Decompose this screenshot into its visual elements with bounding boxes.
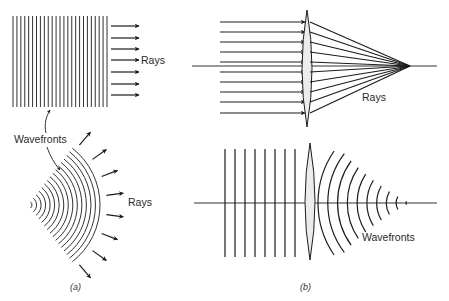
wavefront-arc <box>64 159 86 251</box>
lens-ray-diagram <box>192 10 437 127</box>
plane-wavefronts <box>13 16 107 107</box>
ray-arrow <box>106 215 123 217</box>
convex-lens <box>305 143 315 260</box>
pointer-arrow-up <box>45 110 50 133</box>
panel-b: Rays Wavefronts (b) <box>192 10 437 292</box>
rays-label-plane: Rays <box>141 54 165 66</box>
convex-lens <box>302 10 312 127</box>
wavefront-arc <box>67 155 91 254</box>
ray-arrow <box>79 265 90 278</box>
wavefront-arc <box>33 198 36 211</box>
ray-arrow <box>92 150 106 160</box>
refracted-ray <box>310 32 410 66</box>
plane-wave-rays <box>111 26 139 95</box>
rays-label-lens: Rays <box>362 91 386 103</box>
caption-a: (a) <box>70 282 81 292</box>
ray-arrow <box>106 193 123 195</box>
caption-b: (b) <box>300 282 311 292</box>
wavefront-arc <box>39 191 46 219</box>
spherical-wavefronts <box>30 148 100 261</box>
ray-arrow <box>79 132 90 145</box>
wavefronts-label: Wavefronts <box>14 133 67 145</box>
refracted-ray <box>310 66 410 113</box>
ray-arrow <box>102 170 118 176</box>
ray-arrow <box>102 234 118 240</box>
wavefront-arc <box>30 202 32 208</box>
panel-a: Rays Wavefronts Rays (a) <box>13 16 165 292</box>
ray-arrow <box>92 251 106 261</box>
optics-figure: Rays Wavefronts Rays (a) Rays Wavefronts… <box>0 0 449 301</box>
pointer-arrow-down <box>47 147 60 170</box>
wavefronts-label-lens: Wavefronts <box>362 231 415 243</box>
rays-label-spherical: Rays <box>128 196 152 208</box>
